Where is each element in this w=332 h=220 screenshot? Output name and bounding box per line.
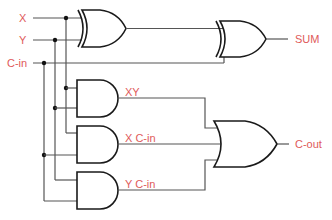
xor-gate-2 — [216, 21, 266, 57]
and-gate-1 — [77, 80, 118, 117]
junction-cin — [42, 61, 46, 65]
and-gate-2 — [77, 126, 118, 163]
output-label-sum: SUM — [295, 33, 319, 45]
wire-xy — [118, 98, 217, 128]
label-ycin: Y C-in — [125, 178, 155, 190]
xor-gate-1 — [78, 10, 126, 47]
input-label-y: Y — [19, 34, 27, 46]
input-label-x: X — [19, 12, 27, 24]
junction-y — [53, 38, 57, 42]
full-adder-diagram: X Y C-in SUM — [0, 0, 332, 220]
label-xcin: X C-in — [125, 132, 156, 144]
label-xy: XY — [125, 86, 140, 98]
input-label-cin: C-in — [7, 57, 27, 69]
or-gate — [214, 121, 277, 167]
output-label-cout: C-out — [295, 138, 322, 150]
junction-x — [64, 16, 68, 20]
and-gate-3 — [77, 172, 118, 209]
